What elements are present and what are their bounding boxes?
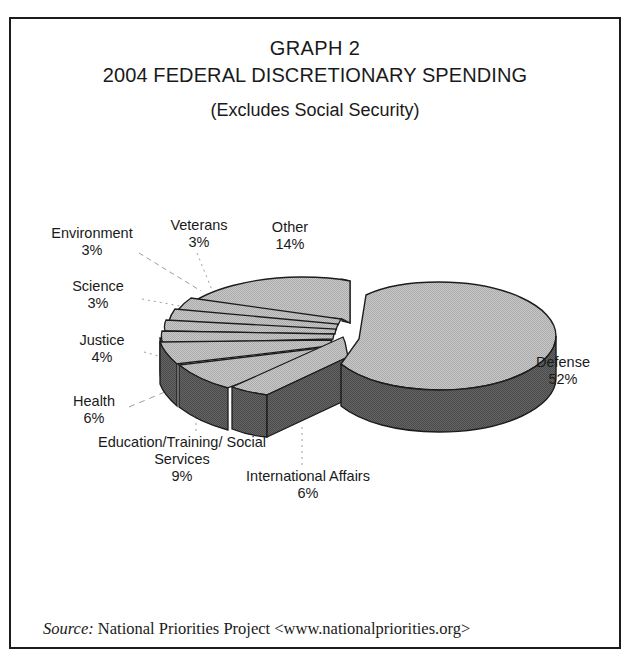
leader-line-veterans (197, 253, 214, 295)
label-defense-name: Defense (536, 354, 590, 370)
label-health-name: Health (73, 393, 115, 409)
label-international-affairs-name: International Affairs (246, 468, 370, 484)
label-health: Health 6% (49, 393, 139, 427)
label-defense: Defense 52% (515, 354, 611, 388)
label-international-affairs: International Affairs 6% (225, 468, 391, 502)
label-international-affairs-pct: 6% (225, 485, 391, 502)
label-science-pct: 3% (46, 295, 150, 312)
label-other: Other 14% (247, 219, 333, 253)
label-environment-name: Environment (51, 225, 132, 241)
label-other-name: Other (272, 219, 308, 235)
source-line: Source: National Priorities Project <www… (43, 619, 470, 639)
slice-international-side (232, 387, 267, 437)
label-health-pct: 6% (49, 410, 139, 427)
label-defense-pct: 52% (515, 371, 611, 388)
label-justice: Justice 4% (52, 332, 152, 366)
label-science: Science 3% (46, 278, 150, 312)
label-veterans-pct: 3% (151, 234, 247, 251)
figure-frame: GRAPH 2 2004 FEDERAL DISCRETIONARY SPEND… (9, 17, 621, 649)
source-label: Source: (43, 619, 94, 638)
label-justice-pct: 4% (52, 349, 152, 366)
label-science-name: Science (72, 278, 124, 294)
label-justice-name: Justice (79, 332, 124, 348)
label-veterans-name: Veterans (170, 217, 227, 233)
label-environment-pct: 3% (33, 242, 151, 259)
label-other-pct: 14% (247, 236, 333, 253)
pie-chart: Environment 3% Veterans 3% Other 14% Sci… (11, 19, 623, 651)
source-text: National Priorities Project <www.nationa… (94, 619, 471, 638)
label-environment: Environment 3% (33, 225, 151, 259)
label-veterans: Veterans 3% (151, 217, 247, 251)
label-education-name: Education/Training/ Social Services (98, 434, 266, 467)
